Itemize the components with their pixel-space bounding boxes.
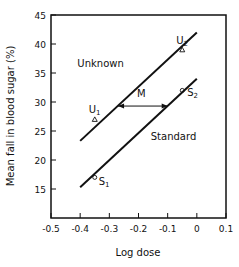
x-tick-label: -0.4 — [71, 224, 89, 234]
point-label-subscript: 2 — [184, 40, 188, 48]
y-tick-label: 40 — [35, 40, 47, 50]
y-tick-label: 20 — [35, 156, 47, 166]
regression-line-unknown — [80, 32, 197, 140]
x-tick-label: -0.5 — [42, 224, 60, 234]
x-tick-label: -0.2 — [130, 224, 148, 234]
point-label-subscript: 1 — [105, 181, 109, 189]
chart: -0.5-0.4-0.3-0.2-0.100.115202530354045 U… — [0, 0, 239, 267]
y-axis-label: Mean fall in blood sugar (%) — [5, 46, 16, 187]
annotations: UnknownStandardM — [77, 58, 196, 142]
y-tick-label: 45 — [35, 11, 46, 21]
y-tick-label: 25 — [35, 127, 46, 137]
circle-marker — [93, 175, 97, 179]
point-label: U1 — [89, 104, 101, 117]
plot-frame — [51, 15, 226, 218]
y-tick-label: 35 — [35, 69, 46, 79]
y-tick-label: 15 — [35, 185, 46, 195]
annotation-m: M — [137, 88, 146, 99]
annotation-standard: Standard — [151, 131, 197, 142]
x-tick-label: -0.1 — [159, 224, 177, 234]
x-tick-label: -0.3 — [101, 224, 119, 234]
x-axis-label: Log dose — [116, 247, 161, 258]
ticks: -0.5-0.4-0.3-0.2-0.100.115202530354045 — [35, 11, 234, 235]
point-label: S1 — [99, 176, 110, 189]
point-label-subscript: 1 — [96, 109, 100, 117]
triangle-marker — [92, 117, 97, 122]
annotation-unknown: Unknown — [77, 58, 123, 69]
y-tick-label: 30 — [35, 98, 47, 108]
axes-frame — [51, 15, 226, 218]
point-label: S2 — [187, 87, 198, 100]
x-tick-label: 0.1 — [219, 224, 233, 234]
x-tick-label: 0 — [194, 224, 200, 234]
point-label-subscript: 2 — [194, 92, 198, 100]
